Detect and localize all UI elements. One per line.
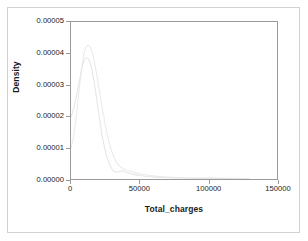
x-tick-label: 150000 <box>248 185 308 193</box>
x-tick-label: 0 <box>40 185 100 193</box>
x-tick-mark <box>70 180 71 184</box>
y-tick-mark <box>66 21 70 22</box>
density-curve-2 <box>71 58 250 179</box>
plot-area <box>70 21 278 180</box>
x-tick-mark <box>278 180 279 184</box>
density-curves <box>71 22 277 179</box>
y-tick-mark <box>66 116 70 117</box>
density-plot-figure: 0.000000.000010.000020.000030.000040.000… <box>0 0 308 241</box>
y-tick-mark <box>66 85 70 86</box>
y-axis-title: Density <box>11 17 21 137</box>
y-tick-mark <box>66 53 70 54</box>
x-tick-mark <box>209 180 210 184</box>
x-tick-label: 50000 <box>109 185 169 193</box>
y-tick-label: 0.00001 <box>0 144 64 152</box>
x-tick-label: 100000 <box>179 185 239 193</box>
density-curve-1 <box>71 45 250 178</box>
y-tick-label: 0.00000 <box>0 176 64 184</box>
y-tick-label: 0.00003 <box>0 81 64 89</box>
x-tick-mark <box>139 180 140 184</box>
y-tick-label: 0.00004 <box>0 49 64 57</box>
y-tick-label: 0.00005 <box>0 17 64 25</box>
y-tick-mark <box>66 148 70 149</box>
x-axis-title: Total_charges <box>70 204 278 214</box>
y-tick-label: 0.00002 <box>0 112 64 120</box>
